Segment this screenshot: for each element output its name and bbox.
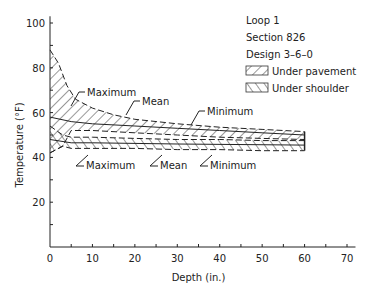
legend-swatch-0 <box>246 66 268 75</box>
y-tick-label: 100 <box>26 18 45 29</box>
y-tick-label: 20 <box>32 197 45 208</box>
x-tick-label: 30 <box>171 253 184 264</box>
x-tick-label: 50 <box>256 253 269 264</box>
legend: Loop 1Section 826Design 3–6–0Under pavem… <box>246 15 356 94</box>
info-line-2: Design 3–6–0 <box>246 49 313 60</box>
x-tick-label: 20 <box>128 253 141 264</box>
legend-label-1: Under shoulder <box>272 83 350 94</box>
legend-label-0: Under pavement <box>272 66 356 77</box>
annotation-shoulder-minimum: Minimum <box>210 160 256 171</box>
x-tick-label: 60 <box>298 253 311 264</box>
x-tick-label: 10 <box>86 253 99 264</box>
y-tick-label: 80 <box>32 63 45 74</box>
info-line-0: Loop 1 <box>246 15 280 26</box>
annotation-shoulder-mean: Mean <box>160 160 187 171</box>
x-axis-title: Depth (in.) <box>172 272 226 283</box>
annotation-pavement-minimum: Minimum <box>207 106 253 117</box>
temperature-depth-chart: 01020304050607020406080100Depth (in.)Tem… <box>0 0 370 299</box>
y-axis-title: Temperature (°F) <box>14 102 25 188</box>
x-tick-label: 0 <box>47 253 53 264</box>
legend-swatch-1 <box>246 83 268 92</box>
x-tick-label: 40 <box>213 253 226 264</box>
annotation-pavement-maximum: Maximum <box>87 87 136 98</box>
annotation-pavement-mean: Mean <box>142 96 169 107</box>
x-tick-label: 70 <box>341 253 354 264</box>
info-line-1: Section 826 <box>246 32 305 43</box>
y-tick-label: 40 <box>32 152 45 163</box>
y-tick-label: 60 <box>32 108 45 119</box>
annotation-shoulder-maximum: Maximum <box>86 160 135 171</box>
